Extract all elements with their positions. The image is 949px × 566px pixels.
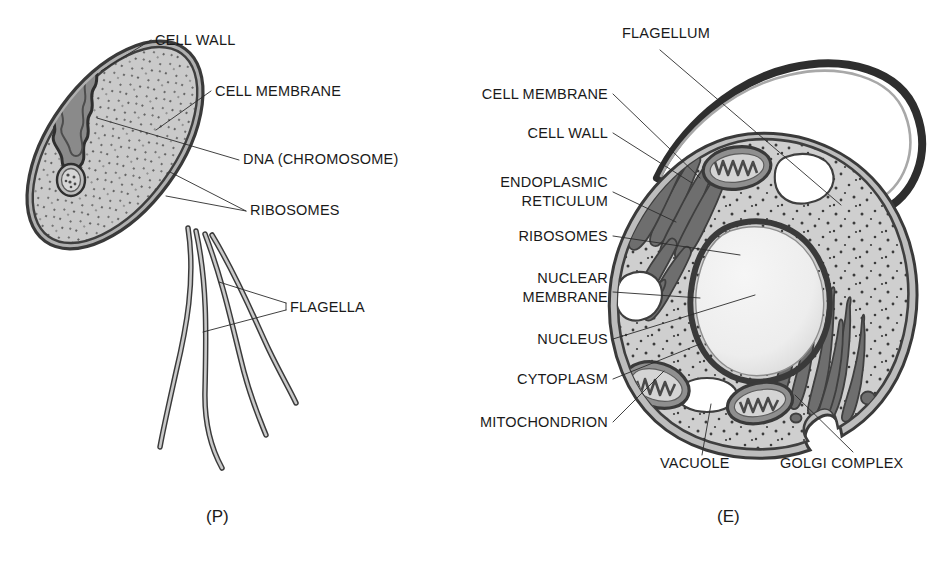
euk-label-er-line1: ENDOPLASMIC [500,174,608,190]
cell-diagram-figure: CELL WALL CELL MEMBRANE DNA (CHROMOSOME)… [0,0,949,566]
euk-label-cytoplasm: CYTOPLASM [517,371,608,387]
leader-ribosome-a [170,172,246,211]
euk-label-nuclear-membrane-line2: MEMBRANE [523,289,609,305]
eukaryote-caption: (E) [717,507,740,526]
euk-label-nucleus: NUCLEUS [537,331,608,347]
prok-label-ribosomes: RIBOSOMES [250,202,340,218]
nucleus-icon [690,221,829,381]
leader-flagella-a [219,282,286,303]
euk-label-ribosomes: RIBOSOMES [518,228,608,244]
prok-label-cell-wall: CELL WALL [155,32,236,48]
euk-label-flagellum: FLAGELLUM [622,25,710,41]
euk-label-vacuole: VACUOLE [660,455,730,471]
prokaryote-ribosome-cluster-icon [57,164,85,196]
prokaryotic-cell-group: CELL WALL CELL MEMBRANE DNA (CHROMOSOME)… [0,10,398,526]
eukaryotic-cell-group: FLAGELLUM CELL MEMBRANE CELL WALL ENDOPL… [480,25,922,526]
leader-ribosome-b [166,196,246,211]
euk-label-golgi-complex: GOLGI COMPLEX [780,455,904,471]
prok-label-dna: DNA (CHROMOSOME) [243,151,398,167]
prok-label-flagella: FLAGELLA [290,299,365,315]
prok-label-cell-membrane: CELL MEMBRANE [215,83,341,99]
euk-label-nuclear-membrane-line1: NUCLEAR [537,270,608,286]
flagella-icon [160,228,296,468]
leader-flagella-b [203,310,286,332]
diagram-canvas: CELL WALL CELL MEMBRANE DNA (CHROMOSOME)… [0,0,949,566]
euk-label-mitochondrion: MITOCHONDRION [480,414,608,430]
euk-label-er-line2: RETICULUM [522,193,608,209]
euk-label-cell-wall: CELL WALL [527,125,608,141]
euk-label-cell-membrane: CELL MEMBRANE [482,86,608,102]
prokaryote-caption: (P) [206,507,229,526]
